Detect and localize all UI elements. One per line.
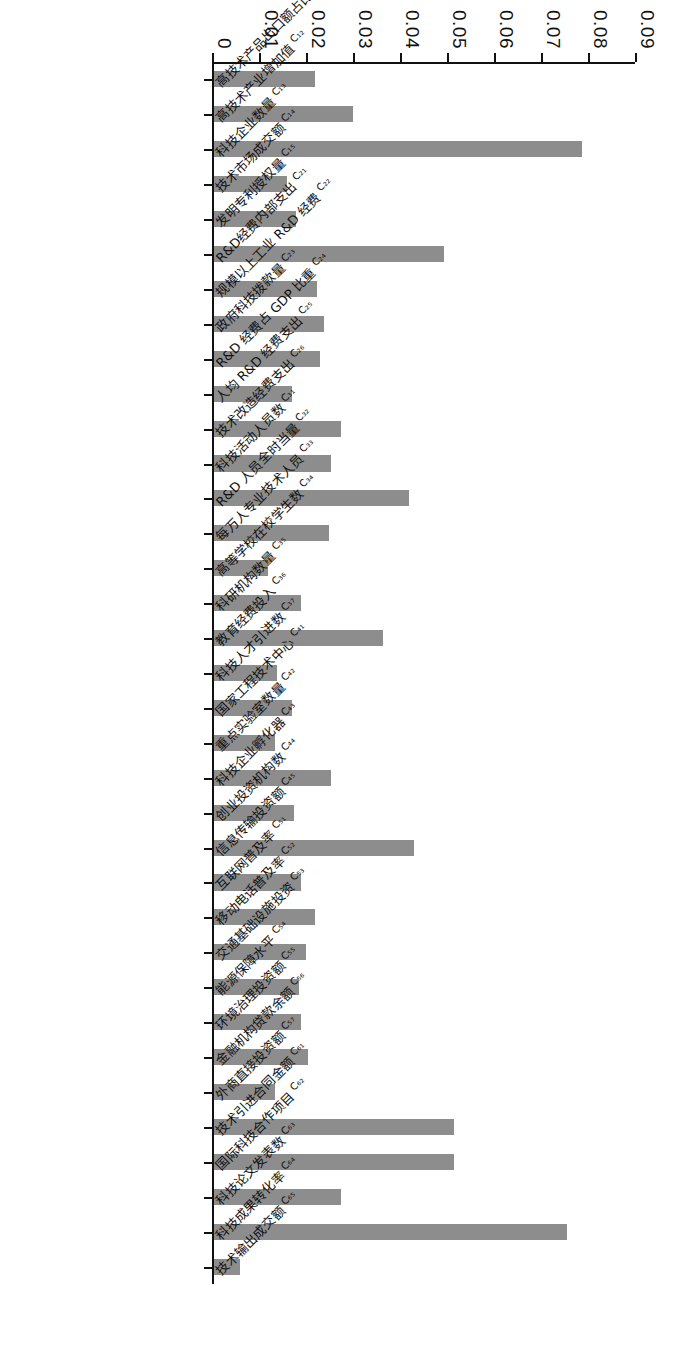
- value-axis-tick: [588, 53, 590, 62]
- value-axis-tick-label: 0: [213, 38, 235, 49]
- rotated-figure-wrapper: 00.010.020.030.040.050.060.070.080.09 高技…: [0, 0, 692, 1352]
- value-axis-tick: [400, 53, 402, 62]
- value-axis-tick-label: 0.07: [542, 10, 564, 49]
- value-axis-tick: [306, 53, 308, 62]
- value-axis-tick-label: 0.08: [589, 10, 611, 49]
- bar-chart-figure: 00.010.020.030.040.050.060.070.080.09 高技…: [0, 0, 692, 1352]
- value-axis-tick: [447, 53, 449, 62]
- value-axis-tick: [541, 53, 543, 62]
- value-axis-tick-label: 0.05: [448, 10, 470, 49]
- value-axis-tick-label: 0.06: [495, 10, 517, 49]
- chart-scan-canvas: 00.010.020.030.040.050.060.070.080.09 高技…: [0, 0, 692, 1352]
- value-axis-tick: [494, 53, 496, 62]
- value-axis-tick-label: 0.04: [401, 10, 423, 49]
- value-axis-tick: [353, 53, 355, 62]
- value-axis-tick: [212, 53, 214, 62]
- value-axis-tick-label: 0.09: [636, 10, 658, 49]
- value-axis-tick-label: 0.03: [354, 10, 376, 49]
- value-axis-tick: [635, 53, 637, 62]
- value-axis-tick-label: 0.02: [307, 10, 329, 49]
- category-axis-labels: 高技术产品出口额占比 C₁₁高技术产业增加值 C₁₂科技企业数量 C₁₃技术市场…: [0, 62, 212, 1284]
